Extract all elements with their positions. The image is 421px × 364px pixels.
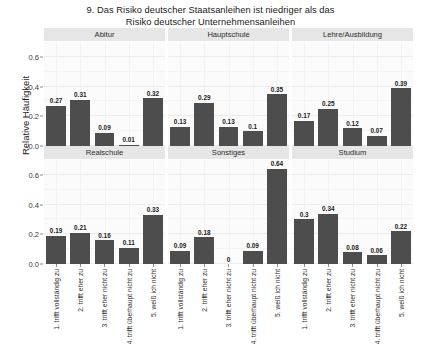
y-tick-mark (40, 174, 43, 175)
bar-value-label: 0.64 (265, 160, 289, 167)
y-axis-row-top: 0.00.20.40.6 (0, 42, 44, 146)
x-tick-slot: 4. trifft überhaupt nicht zu (241, 264, 265, 362)
bar-slot: 0.27 (44, 42, 68, 146)
bar[interactable] (95, 240, 115, 264)
facet-strip-label: Hauptschule (207, 30, 249, 39)
bar-group: 0.270.310.090.010.32 (44, 42, 165, 146)
bar[interactable] (367, 136, 387, 146)
bar-slot: 0.13 (168, 42, 192, 146)
facet-panel-body: 0.130.290.130.10.35 (168, 42, 289, 146)
bar-value-label: 0.33 (141, 206, 165, 213)
bar-value-label: 0.25 (316, 100, 340, 107)
x-tick-mark (80, 264, 81, 267)
bar-value-label: 0.39 (389, 80, 413, 87)
bar[interactable] (143, 215, 163, 264)
facet-panel: Realschule0.190.210.160.110.33 (44, 146, 165, 264)
bar-slot: 0.13 (216, 42, 240, 146)
bar-slot: 0.22 (389, 160, 413, 264)
x-tick-label: 5. weiß ich nicht (149, 269, 156, 317)
bar[interactable] (267, 94, 287, 146)
x-tick-slot: 4. trifft überhaupt nicht zu (117, 264, 141, 362)
x-axis-panel: 1. trifft vollständig zu2. trifft eher z… (168, 264, 289, 362)
bar-group: 0.30.340.080.060.22 (292, 160, 413, 264)
x-tick-slot: 3. trifft eher nicht zu (340, 264, 364, 362)
bar[interactable] (194, 103, 214, 146)
x-tick-slot: 3. trifft eher nicht zu (92, 264, 116, 362)
bar-slot: 0.18 (192, 160, 216, 264)
bar-group: 0.190.210.160.110.33 (44, 160, 165, 264)
bar[interactable] (170, 251, 190, 264)
bar[interactable] (391, 88, 411, 146)
x-tick-label: 5. weiß ich nicht (397, 269, 404, 317)
bar[interactable] (267, 169, 287, 264)
bar[interactable] (194, 237, 214, 264)
bar-value-label: 0.32 (141, 90, 165, 97)
bar[interactable] (70, 233, 90, 264)
facet-panel-body: 0.170.250.120.070.39 (292, 42, 413, 146)
bar[interactable] (119, 248, 139, 264)
bar[interactable] (343, 252, 363, 264)
bar-value-label: 0.31 (68, 91, 92, 98)
bar[interactable] (367, 255, 387, 264)
bar[interactable] (243, 251, 263, 264)
bar-value-label: 0.13 (216, 118, 240, 125)
x-tick-label: 2. trifft eher zu (77, 269, 84, 312)
y-tick-mark (40, 56, 43, 57)
x-tick-mark (104, 264, 105, 267)
bar-slot: 0.06 (365, 160, 389, 264)
facet-strip: Hauptschule (168, 28, 289, 41)
bar-value-label: 0.35 (265, 86, 289, 93)
x-tick-label: 1. trifft vollständig zu (177, 269, 184, 330)
x-tick-slot: 1. trifft vollständig zu (44, 264, 68, 362)
y-tick-label: 0.2 (28, 230, 39, 239)
x-axis-panel: 1. trifft vollständig zu2. trifft eher z… (44, 264, 165, 362)
bar-value-label: 0.09 (241, 242, 265, 249)
bar[interactable] (95, 133, 115, 146)
x-tick-mark (304, 264, 305, 267)
facet-strip: Abitur (44, 28, 165, 41)
bar-slot: 0.08 (340, 160, 364, 264)
bar[interactable] (243, 131, 263, 146)
x-tick-slot: 2. trifft eher zu (68, 264, 92, 362)
bar[interactable] (318, 214, 338, 265)
bar[interactable] (70, 100, 90, 146)
x-tick-mark (277, 264, 278, 267)
bar[interactable] (318, 109, 338, 146)
y-tick-label: 0.6 (28, 170, 39, 179)
x-tick-slot: 5. weiß ich nicht (389, 264, 413, 362)
x-tick-mark (56, 264, 57, 267)
y-tick-mark (40, 146, 43, 147)
y-tick-label: 0.6 (28, 52, 39, 61)
title-line-1: 9. Das Risiko deutscher Staatsanleihen i… (0, 4, 421, 16)
bar[interactable] (294, 219, 314, 264)
y-tick-mark (40, 234, 43, 235)
bar-value-label: 0.22 (389, 223, 413, 230)
bar[interactable] (219, 127, 239, 146)
bar[interactable] (46, 106, 66, 146)
x-tick-label: 3. trifft eher nicht zu (101, 269, 108, 328)
facet-panel: Studium0.30.340.080.060.22 (292, 146, 413, 264)
bar-slot: 0.09 (168, 160, 192, 264)
bar-slot: 0.12 (340, 42, 364, 146)
x-tick-mark (129, 264, 130, 267)
bar[interactable] (170, 127, 190, 146)
bar[interactable] (343, 128, 363, 146)
facet-plot-area: Abitur0.270.310.090.010.32Hauptschule0.1… (44, 28, 413, 264)
bar-slot: 0.01 (117, 42, 141, 146)
bar[interactable] (294, 121, 314, 146)
x-tick-mark (180, 264, 181, 267)
bar-value-label: 0.08 (340, 244, 364, 251)
bar[interactable] (46, 236, 66, 264)
x-tick-mark (228, 264, 229, 267)
x-tick-label: 2. trifft eher zu (325, 269, 332, 312)
facet-panel-body: 0.190.210.160.110.33 (44, 160, 165, 264)
bar-value-label: 0.34 (316, 205, 340, 212)
facet-strip: Studium (292, 146, 413, 159)
bar[interactable] (143, 98, 163, 146)
bar[interactable] (391, 231, 411, 264)
x-tick-slot: 2. trifft eher zu (316, 264, 340, 362)
bar-value-label: 0.13 (168, 118, 192, 125)
bar-slot: 0.39 (389, 42, 413, 146)
bar-slot: 0.21 (68, 160, 92, 264)
x-tick-slot: 4. trifft überhaupt nicht zu (365, 264, 389, 362)
